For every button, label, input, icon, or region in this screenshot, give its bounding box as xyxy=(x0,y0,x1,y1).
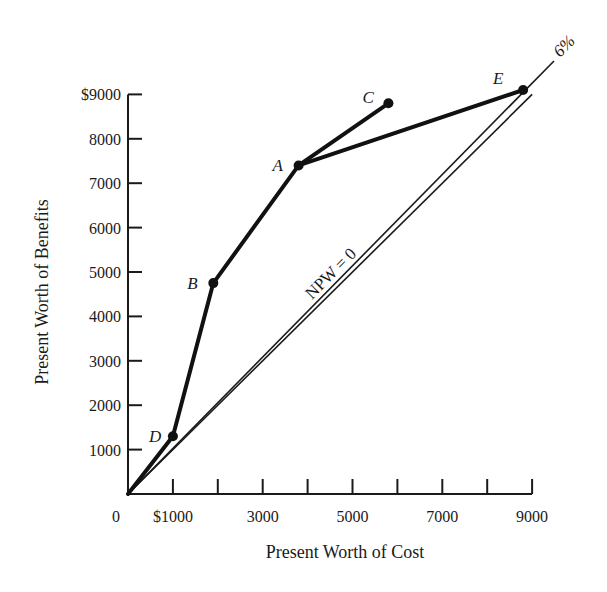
point-c xyxy=(383,98,393,108)
y-tick-label: 2000 xyxy=(89,397,121,414)
point-label-e: E xyxy=(492,69,504,88)
y-tick-label: 1000 xyxy=(89,442,121,459)
y-tick-label: 6000 xyxy=(89,220,121,237)
x-tick-label: 7000 xyxy=(426,508,458,525)
x-tick-label: $1000 xyxy=(153,508,193,525)
x-tick-label: 0 xyxy=(112,508,120,525)
point-a xyxy=(294,160,304,170)
y-tick-label: 4000 xyxy=(89,308,121,325)
point-d xyxy=(168,431,178,441)
x-axis-title: Present Worth of Cost xyxy=(266,542,425,562)
y-axis-title: Present Worth of Benefits xyxy=(32,199,52,385)
point-b xyxy=(208,278,218,288)
series-line xyxy=(128,103,388,494)
point-label-a: A xyxy=(272,156,284,175)
chart: 0$10003000500070009000100020003000400050… xyxy=(0,0,607,592)
x-tick-label: 9000 xyxy=(516,508,548,525)
x-tick-label: 5000 xyxy=(337,508,369,525)
point-e xyxy=(518,85,528,95)
chart-svg: 0$10003000500070009000100020003000400050… xyxy=(0,0,607,592)
y-tick-label: 3000 xyxy=(89,353,121,370)
y-tick-label: 8000 xyxy=(89,131,121,148)
x-tick-label: 3000 xyxy=(247,508,279,525)
y-tick-label: 7000 xyxy=(89,175,121,192)
point-label-c: C xyxy=(362,88,374,107)
point-label-d: D xyxy=(148,427,162,446)
y-tick-label: $9000 xyxy=(81,86,121,103)
y-tick-label: 5000 xyxy=(89,264,121,281)
rate-6pct-label: 6% xyxy=(549,31,578,60)
point-label-b: B xyxy=(187,274,198,293)
reference-lines: NPW = 06% xyxy=(128,31,579,494)
